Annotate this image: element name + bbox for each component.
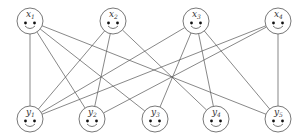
edge-x2-y2 <box>95 34 111 107</box>
node-y1: y1 <box>17 106 43 132</box>
node-y3: y3 <box>142 106 168 132</box>
node-y2: y2 <box>79 106 105 132</box>
edge-x4-y2 <box>104 27 267 113</box>
node-x2: x2 <box>100 8 126 34</box>
edge-x3-y4 <box>199 34 214 107</box>
node-y5: y5 <box>265 106 291 132</box>
edge-x2-y1 <box>38 31 104 109</box>
node-x3: x3 <box>183 8 209 34</box>
node-y4: y4 <box>203 106 229 132</box>
bipartite-graph: x1x2x3x4y1y2y3y4y5 <box>0 0 306 140</box>
node-x4: x4 <box>265 8 291 34</box>
edge-x2-y4 <box>122 30 206 110</box>
edges-layer <box>30 26 278 114</box>
edge-x1-y2 <box>37 32 85 108</box>
edge-x1-y3 <box>40 29 145 111</box>
node-x1: x1 <box>17 8 43 34</box>
